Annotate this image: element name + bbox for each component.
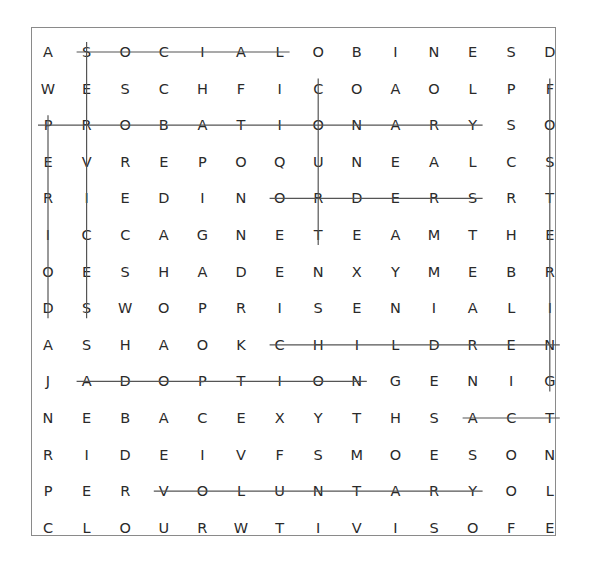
grid-cell[interactable]: T — [265, 513, 295, 543]
grid-cell[interactable]: S — [303, 293, 333, 323]
grid-cell[interactable]: T — [226, 110, 256, 140]
grid-cell[interactable]: B — [496, 257, 526, 287]
grid-cell[interactable]: O — [187, 330, 217, 360]
grid-cell[interactable]: L — [380, 330, 410, 360]
grid-cell[interactable]: E — [72, 74, 102, 104]
grid-cell[interactable]: V — [342, 513, 372, 543]
grid-cell[interactable]: I — [72, 440, 102, 470]
grid-cell[interactable]: O — [33, 257, 63, 287]
grid-cell[interactable]: C — [496, 403, 526, 433]
grid-cell[interactable]: O — [226, 147, 256, 177]
grid-cell[interactable]: P — [187, 147, 217, 177]
grid-cell[interactable]: C — [149, 37, 179, 67]
grid-cell[interactable]: L — [265, 37, 295, 67]
grid-cell[interactable]: N — [380, 293, 410, 323]
grid-cell[interactable]: O — [110, 37, 140, 67]
grid-cell[interactable]: V — [226, 440, 256, 470]
grid-cell[interactable]: A — [33, 37, 63, 67]
grid-cell[interactable]: H — [187, 74, 217, 104]
grid-cell[interactable]: L — [496, 293, 526, 323]
grid-cell[interactable]: E — [380, 183, 410, 213]
grid-cell[interactable]: R — [33, 440, 63, 470]
grid-cell[interactable]: G — [187, 220, 217, 250]
grid-cell[interactable]: A — [33, 330, 63, 360]
grid-cell[interactable]: N — [419, 37, 449, 67]
grid-cell[interactable]: C — [72, 220, 102, 250]
grid-cell[interactable]: N — [303, 476, 333, 506]
grid-cell[interactable]: N — [342, 110, 372, 140]
grid-cell[interactable]: B — [110, 403, 140, 433]
grid-cell[interactable]: C — [149, 74, 179, 104]
grid-cell[interactable]: S — [303, 440, 333, 470]
grid-cell[interactable]: L — [458, 147, 488, 177]
grid-cell[interactable]: X — [265, 403, 295, 433]
grid-cell[interactable]: F — [496, 513, 526, 543]
grid-cell[interactable]: E — [72, 403, 102, 433]
grid-cell[interactable]: L — [72, 513, 102, 543]
grid-cell[interactable]: L — [535, 476, 565, 506]
grid-cell[interactable]: E — [265, 257, 295, 287]
grid-cell[interactable]: R — [226, 293, 256, 323]
grid-cell[interactable]: E — [33, 147, 63, 177]
grid-cell[interactable]: H — [496, 220, 526, 250]
grid-cell[interactable]: I — [496, 366, 526, 396]
grid-cell[interactable]: O — [110, 513, 140, 543]
grid-cell[interactable]: T — [342, 476, 372, 506]
grid-cell[interactable]: D — [419, 330, 449, 360]
grid-cell[interactable]: O — [535, 110, 565, 140]
grid-cell[interactable]: E — [342, 220, 372, 250]
grid-cell[interactable]: I — [33, 220, 63, 250]
grid-cell[interactable]: H — [303, 330, 333, 360]
grid-cell[interactable]: E — [496, 330, 526, 360]
grid-cell[interactable]: A — [149, 220, 179, 250]
grid-cell[interactable]: O — [303, 110, 333, 140]
grid-cell[interactable]: R — [419, 476, 449, 506]
grid-cell[interactable]: A — [187, 110, 217, 140]
grid-cell[interactable]: I — [535, 293, 565, 323]
grid-cell[interactable]: Y — [458, 110, 488, 140]
grid-cell[interactable]: I — [380, 37, 410, 67]
grid-cell[interactable]: I — [187, 183, 217, 213]
grid-cell[interactable]: C — [303, 74, 333, 104]
grid-cell[interactable]: O — [265, 183, 295, 213]
grid-cell[interactable]: A — [149, 403, 179, 433]
grid-cell[interactable]: I — [187, 37, 217, 67]
grid-cell[interactable]: M — [419, 257, 449, 287]
grid-cell[interactable]: Y — [458, 476, 488, 506]
grid-cell[interactable]: A — [149, 330, 179, 360]
grid-cell[interactable]: R — [535, 257, 565, 287]
grid-cell[interactable]: A — [380, 476, 410, 506]
grid-cell[interactable]: N — [342, 366, 372, 396]
grid-cell[interactable]: N — [303, 257, 333, 287]
grid-cell[interactable]: O — [419, 74, 449, 104]
grid-cell[interactable]: W — [226, 513, 256, 543]
grid-cell[interactable]: I — [342, 330, 372, 360]
grid-cell[interactable]: O — [110, 110, 140, 140]
grid-cell[interactable]: T — [458, 220, 488, 250]
grid-cell[interactable]: D — [342, 183, 372, 213]
grid-cell[interactable]: R — [110, 147, 140, 177]
grid-cell[interactable]: R — [419, 110, 449, 140]
grid-cell[interactable]: E — [535, 513, 565, 543]
grid-cell[interactable]: E — [149, 147, 179, 177]
grid-cell[interactable]: S — [458, 440, 488, 470]
grid-cell[interactable]: H — [149, 257, 179, 287]
grid-cell[interactable]: I — [265, 110, 295, 140]
grid-cell[interactable]: I — [380, 513, 410, 543]
grid-cell[interactable]: S — [72, 293, 102, 323]
grid-cell[interactable]: I — [419, 293, 449, 323]
grid-cell[interactable]: O — [496, 476, 526, 506]
grid-cell[interactable]: E — [535, 220, 565, 250]
grid-cell[interactable]: S — [110, 257, 140, 287]
grid-cell[interactable]: U — [303, 147, 333, 177]
grid-cell[interactable]: I — [265, 366, 295, 396]
grid-cell[interactable]: P — [33, 110, 63, 140]
grid-cell[interactable]: R — [303, 183, 333, 213]
grid-cell[interactable]: G — [380, 366, 410, 396]
grid-cell[interactable]: C — [265, 330, 295, 360]
grid-cell[interactable]: E — [419, 366, 449, 396]
grid-cell[interactable]: C — [110, 220, 140, 250]
grid-cell[interactable]: H — [110, 330, 140, 360]
grid-cell[interactable]: N — [226, 183, 256, 213]
grid-cell[interactable]: E — [110, 183, 140, 213]
